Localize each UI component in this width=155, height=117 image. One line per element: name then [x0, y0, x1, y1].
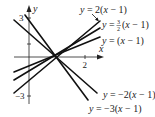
eq5-suffix: − 1) — [123, 103, 142, 115]
eq3-prefix: = ( — [106, 35, 121, 47]
y-tick-label-neg3: −3 — [15, 91, 25, 101]
eq2-numerator: 3 — [117, 19, 120, 25]
line-slope-1 — [14, 37, 100, 72]
label-eq-slope-neg3: y = −3(x − 1) — [88, 103, 142, 115]
y-axis-label: y — [32, 3, 38, 14]
y-tick-label-3: 3 — [19, 13, 24, 23]
eq2-suffix: − 1) — [130, 19, 149, 31]
label-eq-slope-2: y = 2(x − 1) — [79, 4, 127, 16]
lines — [14, 15, 100, 100]
eq4-prefix: = −2( — [107, 89, 132, 101]
y-axis-arrow-icon — [27, 5, 32, 12]
label-eq-slope-1.5: y = 3 2 (x − 1) — [101, 19, 149, 32]
svg-text:(x − 1): (x − 1) — [122, 19, 149, 31]
x-tick-label-2: 2 — [83, 60, 88, 70]
eq4-suffix: − 1) — [137, 89, 155, 101]
eq1-suffix: − 1) — [108, 4, 127, 16]
eq5-prefix: = −3( — [93, 103, 118, 115]
eq2-equals: = — [106, 19, 115, 30]
svg-text:y =: y = — [101, 19, 115, 30]
label-eq-slope-neg2: y = −2(x − 1) — [102, 89, 155, 101]
label-eq-slope-1: y = (x − 1) — [101, 35, 144, 47]
line-slope-neg3 — [25, 15, 88, 100]
x-axis-arrow-icon — [97, 55, 104, 60]
chart: y x 2 3 −3 y = 2(x − 1) y = 3 2 (x − 1) … — [0, 0, 155, 117]
eq3-suffix: − 1) — [125, 35, 144, 47]
eq1-prefix: = 2( — [84, 4, 104, 16]
eq2-denominator: 2 — [117, 26, 120, 32]
